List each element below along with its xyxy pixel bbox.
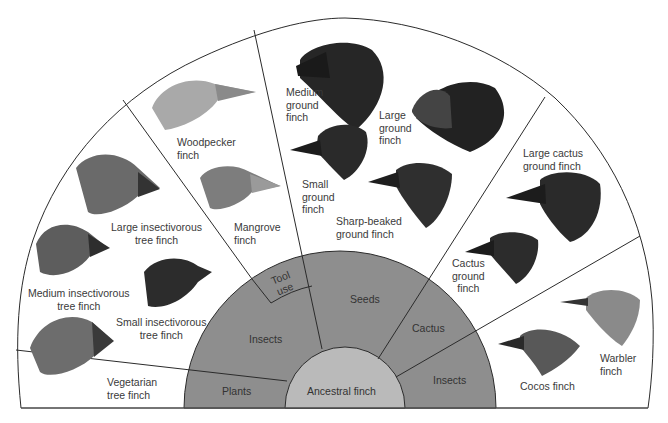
finch-label-medium-ground: Medium ground finch — [286, 86, 323, 124]
finch-label-woodpecker: Woodpecker finch — [177, 136, 236, 161]
diet-label-insects-left: Insects — [249, 333, 282, 345]
finch-label-mangrove: Mangrove finch — [234, 221, 281, 246]
finch-label-cactus-ground: Cactus ground finch — [452, 257, 485, 295]
finch-label-medium-insectivorous: Medium insectivorous tree finch — [28, 287, 130, 312]
finch-label-warbler: Warbler finch — [600, 352, 636, 377]
finch-label-large-cactus: Large cactus ground finch — [523, 147, 583, 172]
finch-label-large-insectivorous: Large insectivorous tree finch — [111, 221, 202, 246]
diet-label-insects-right: Insects — [433, 374, 466, 386]
finch-label-small-ground: Small ground finch — [302, 178, 335, 216]
diet-label-plants: Plants — [222, 385, 251, 397]
finch-label-large-ground: Large ground finch — [379, 109, 412, 147]
diet-label-seeds: Seeds — [350, 293, 380, 305]
diet-label-cactus: Cactus — [412, 322, 445, 334]
finch-label-cocos: Cocos finch — [520, 380, 575, 393]
finch-label-sharp-beaked: Sharp-beaked ground finch — [336, 215, 402, 240]
finch-radiation-diagram: Plants Insects Tool use Seeds Cactus Ins… — [0, 0, 668, 423]
finch-label-small-insectivorous: Small insectivorous tree finch — [116, 316, 206, 341]
core-label: Ancestral finch — [307, 385, 376, 397]
finch-label-vegetarian: Vegetarian tree finch — [107, 376, 157, 401]
